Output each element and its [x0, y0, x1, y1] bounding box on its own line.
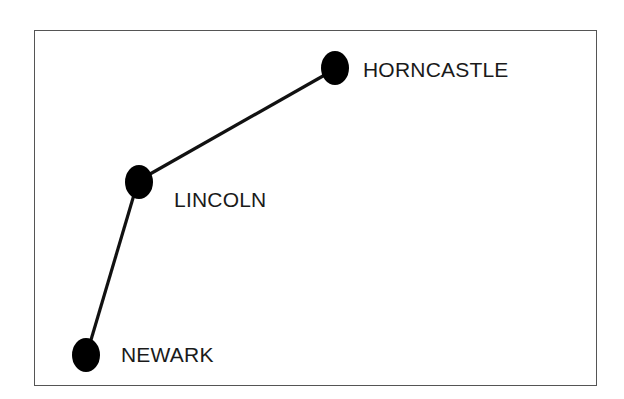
label-newark: NEWARK [121, 344, 214, 365]
label-lincoln: LINCOLN [174, 189, 266, 210]
label-horncastle: HORNCASTLE [363, 59, 509, 80]
node-horncastle-icon [321, 51, 349, 85]
edge-newark-lincoln [88, 188, 136, 350]
edge-lincoln-horncastle [143, 72, 330, 178]
node-lincoln-icon [125, 165, 153, 199]
route-diagram [0, 0, 624, 399]
node-newark-icon [72, 338, 100, 372]
